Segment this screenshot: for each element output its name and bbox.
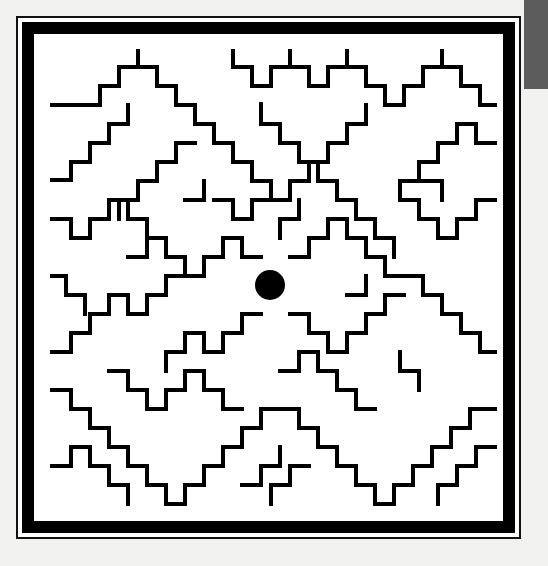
maze-figure [0,0,548,566]
page-root: Maze [0,0,548,566]
center-dot-marker [255,270,285,300]
maze-svg [0,0,548,566]
